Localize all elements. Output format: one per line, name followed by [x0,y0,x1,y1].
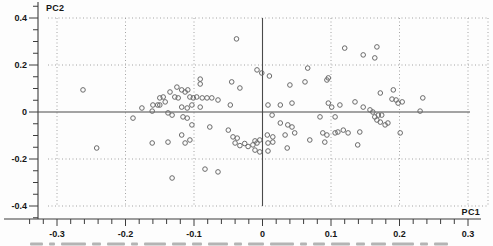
y-tick-label: 0.2 [14,60,27,70]
data-point [205,96,210,101]
data-point [229,80,234,85]
caption-fragment [131,243,138,246]
caption-fragment [172,243,186,246]
data-point [323,140,328,145]
caption-fragment [234,243,242,246]
data-point [375,45,380,50]
data-point [285,146,290,151]
caption-fragment [356,243,365,246]
data-point [151,103,156,108]
data-point [168,90,173,95]
data-point [290,125,295,130]
data-point [325,133,330,138]
data-point [421,96,426,101]
data-point [267,74,272,79]
caption-fragment [392,243,414,246]
y-tick-label: 0 [22,107,27,117]
data-point [183,141,188,146]
data-point [341,128,346,133]
data-point [198,105,203,110]
data-point [166,140,171,145]
x-tick-label: -0.3 [49,229,65,239]
data-point [185,106,190,111]
data-point [418,109,423,114]
data-point [179,133,184,138]
data-point [258,150,263,155]
caption-fragment [420,243,428,246]
data-point [391,88,396,93]
data-point [379,113,384,118]
pca-scatter-figure: 0.40.20-0.2-0.4-0.3-0.2-0.100.10.20.3 PC… [0,0,493,246]
axes [4,2,481,219]
data-point [233,141,238,146]
data-point [246,144,251,149]
data-point [260,71,265,76]
data-point [208,125,213,130]
caption-fragment [30,243,43,246]
data-point [81,88,86,93]
data-point [94,146,99,151]
data-point [353,100,358,105]
x-tick-label: -0.2 [118,229,134,239]
caption-fragment [331,243,350,246]
data-point [150,109,155,114]
scatter-plot-canvas: 0.40.20-0.2-0.4-0.3-0.2-0.100.10.20.3 PC… [0,0,493,246]
data-point [346,131,351,136]
data-point [228,103,233,108]
data-point [175,85,180,90]
data-point [318,115,323,120]
data-point [266,103,271,108]
data-point [265,133,270,138]
data-point [185,116,190,121]
y-tick-label: -0.2 [11,154,27,164]
data-point [226,128,231,133]
data-point [190,123,195,128]
caption-fragment [270,243,294,246]
data-point [361,53,366,58]
caption-fragment [248,243,264,246]
data-point [200,96,205,101]
data-point [266,149,271,154]
x-tick-label: 0.2 [393,229,406,239]
data-point [210,96,215,101]
data-point [188,138,193,143]
data-point [358,130,363,135]
data-point [271,135,276,140]
data-point [336,130,341,135]
data-point [283,133,288,138]
data-point [278,121,283,126]
data-point [398,131,403,136]
data-point [338,103,343,108]
data-point [326,101,331,106]
caption-fragment [92,243,101,246]
data-point [303,80,308,85]
caption-fragment [371,243,386,246]
data-point [216,98,221,103]
data-point [278,103,283,108]
data-point [198,82,203,87]
caption-fragment [107,243,125,246]
data-point [255,68,260,73]
data-point [258,138,263,143]
data-point [238,143,243,148]
data-point [253,148,258,153]
axis-ticks [29,6,468,226]
data-point [270,113,275,118]
data-point [333,115,338,120]
data-point [203,167,208,172]
data-point [288,83,293,88]
caption-fragment [208,243,228,246]
data-point [266,141,271,146]
data-point [190,103,195,108]
data-point [292,131,297,136]
data-point [150,141,155,146]
y-axis-title: PC2 [46,3,64,13]
clipped-caption-strip [30,243,448,246]
data-point [170,176,175,181]
data-point [216,170,221,175]
y-tick-label: -0.4 [11,201,27,211]
caption-fragment [192,243,202,246]
x-tick-label: 0.3 [462,229,475,239]
data-point [355,143,360,148]
data-point [308,138,313,143]
